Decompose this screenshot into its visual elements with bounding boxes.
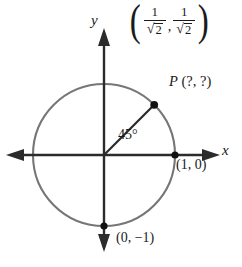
answer-second-numerator: 1 xyxy=(181,5,188,20)
answer-first-denominator: √2 xyxy=(147,21,163,37)
point-p-label: P (?, ?) xyxy=(169,74,211,89)
point-p-dot xyxy=(150,101,158,109)
unit-circle-figure: Find the coordinates of y x 45° P (?, ?)… xyxy=(0,0,242,267)
y-axis-label: y xyxy=(91,13,98,28)
answer-first-numerator: 1 xyxy=(151,5,158,20)
point-zero-negative-one-label: (0, −1) xyxy=(116,231,154,245)
answer-first-fraction: 1 √2 xyxy=(143,5,167,37)
point-p-coords: (?, ?) xyxy=(181,73,211,89)
point-zero-negative-one-dot xyxy=(100,222,107,229)
x-axis-arrow-left xyxy=(6,149,24,161)
sqrt-icon: √ xyxy=(147,22,155,36)
y-axis-arrow-up xyxy=(98,28,110,46)
answer-second-denominator: √2 xyxy=(176,21,192,37)
point-one-zero-label: (1, 0) xyxy=(176,158,206,172)
x-axis-label: x xyxy=(222,143,229,158)
answer-close-paren: ) xyxy=(198,3,209,39)
answer-second-radicand: 2 xyxy=(184,23,192,37)
y-axis-arrow-down xyxy=(98,234,110,252)
answer-second-fraction: 1 √2 xyxy=(172,5,196,37)
sqrt-icon: √ xyxy=(176,22,184,36)
answer-open-paren: ( xyxy=(130,3,141,39)
answer-first-radicand: 2 xyxy=(154,23,162,37)
angle-label: 45° xyxy=(118,128,138,142)
answer-coordinate-label: ( 1 √2 , 1 √2 ) xyxy=(128,3,211,39)
point-p-name: P xyxy=(169,73,178,89)
